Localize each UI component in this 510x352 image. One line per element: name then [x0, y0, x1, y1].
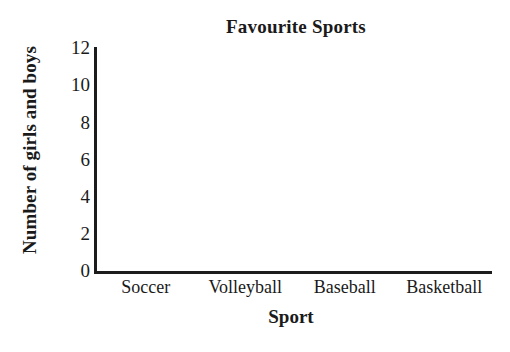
chart-title: Favourite Sports [96, 16, 496, 38]
x-category-label: Basketball [395, 277, 495, 298]
y-tick-label: 8 [60, 113, 90, 132]
y-axis-tick-labels: 12 10 8 6 4 2 0 [58, 0, 90, 352]
y-axis-title: Number of girls and boys [19, 46, 41, 254]
x-category-label: Volleyball [196, 277, 296, 298]
y-axis-line [94, 47, 97, 274]
bar-chart-figure: Favourite Sports Number of girls and boy… [0, 0, 510, 352]
y-tick-label: 10 [60, 75, 90, 94]
y-tick-label: 4 [60, 187, 90, 206]
x-axis-title: Sport [96, 306, 486, 328]
y-tick-label: 12 [60, 38, 90, 57]
x-category-label: Soccer [96, 277, 196, 298]
y-tick-label: 0 [60, 261, 90, 280]
x-axis-category-labels: Soccer Volleyball Baseball Basketball [96, 277, 494, 301]
y-tick-label: 6 [60, 150, 90, 169]
x-axis-line [94, 271, 492, 274]
plot-area [96, 48, 492, 272]
y-tick-label: 2 [60, 224, 90, 243]
y-axis-title-container: Number of girls and boys [0, 0, 60, 300]
x-category-label: Baseball [295, 277, 395, 298]
